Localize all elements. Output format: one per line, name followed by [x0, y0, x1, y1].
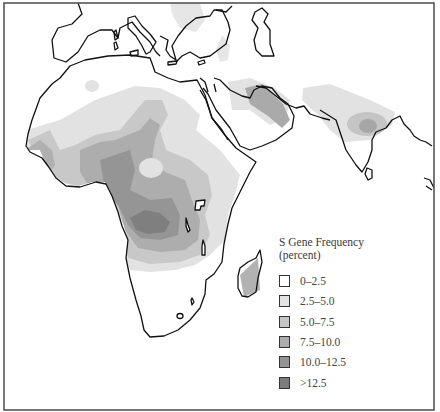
legend-label: 2.5–5.0: [300, 295, 335, 307]
island-southern-mark-2: [177, 314, 183, 319]
legend-swatch: [279, 275, 290, 287]
island-sri-lanka: [365, 168, 372, 180]
legend-title: S Gene Frequency: [279, 236, 429, 249]
legend-item: 2.5–5.0: [279, 291, 429, 311]
legend-label: 10.0–12.5: [300, 356, 346, 368]
legend-unit: (percent): [279, 249, 429, 262]
island-crete: [168, 61, 177, 65]
legend-label: 0–2.5: [300, 275, 326, 287]
island-cyprus: [198, 60, 205, 65]
legend-item: 0–2.5: [279, 271, 429, 291]
coast-caspian-sea: [252, 8, 274, 56]
zone-central-light-patch: [139, 158, 163, 178]
island-southern-mark-1: [191, 298, 194, 305]
zone-madagascar: [240, 258, 260, 297]
legend-swatch: [279, 356, 290, 368]
legend-swatch: [279, 316, 290, 328]
legend-items: 0–2.5 2.5–5.0 5.0–7.5 7.5–10.0 10.0–12.5…: [279, 271, 429, 393]
legend-item: 5.0–7.5: [279, 312, 429, 332]
zone-north-light-spot: [85, 80, 99, 92]
legend-item: 10.0–12.5: [279, 352, 429, 372]
island-sardinia: [114, 42, 118, 50]
coast-southeast-asia: [424, 178, 434, 190]
coast-red-sea-west: [200, 90, 228, 140]
legend: S Gene Frequency (percent) 0–2.5 2.5–5.0…: [279, 236, 429, 393]
legend-item: >12.5: [279, 372, 429, 392]
legend-item: 7.5–10.0: [279, 332, 429, 352]
legend-label: >12.5: [300, 377, 327, 389]
zone-india-light: [302, 84, 395, 142]
coast-iberia: [52, 3, 160, 62]
zone-india-dark: [359, 119, 377, 133]
legend-label: 5.0–7.5: [300, 316, 335, 328]
legend-label: 7.5–10.0: [300, 336, 340, 348]
legend-swatch: [279, 336, 290, 348]
legend-swatch: [279, 377, 290, 389]
legend-swatch: [279, 295, 290, 307]
coast-black-sea: [216, 6, 232, 12]
